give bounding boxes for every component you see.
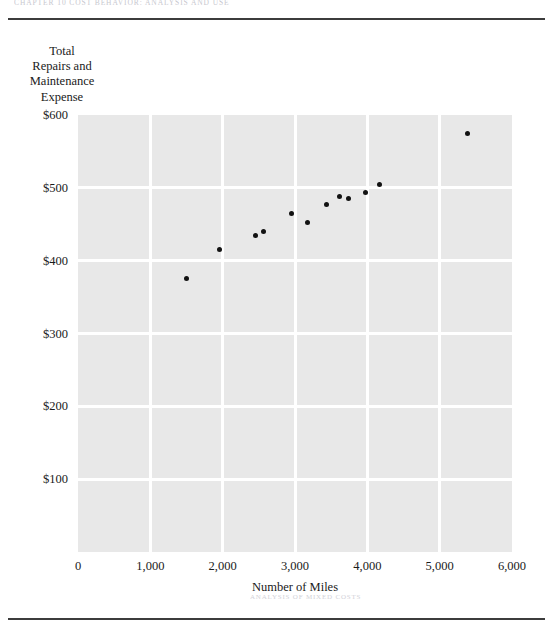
- data-point: [305, 220, 310, 225]
- y-axis-title-line-2: Repairs and: [2, 59, 122, 74]
- y-axis-title-line-3: Maintenance: [2, 74, 122, 89]
- gridline-horizontal: [78, 259, 512, 262]
- y-axis-tick-label: $100: [10, 473, 68, 486]
- data-point: [324, 202, 329, 207]
- y-axis-tick-label: $500: [10, 182, 68, 195]
- x-axis-tick-label: 0: [48, 559, 108, 573]
- data-point: [184, 276, 189, 281]
- data-point: [346, 196, 351, 201]
- data-point: [377, 182, 382, 187]
- x-axis-tick-label: 3,000: [265, 559, 325, 573]
- y-axis-title-text-2: Repairs and: [32, 59, 91, 73]
- y-axis-title-line-1: Total: [2, 44, 122, 59]
- scatter-plot-figure: Total Repairs and Maintenance Expense $1…: [0, 0, 553, 635]
- gridline-horizontal: [78, 186, 512, 189]
- data-point: [253, 233, 258, 238]
- y-axis-tick-label: $200: [10, 400, 68, 413]
- x-axis-tick-label: 2,000: [193, 559, 253, 573]
- data-point: [465, 131, 470, 136]
- foot-note: ANALYSIS OF MIXED COSTS: [250, 593, 480, 601]
- data-point: [261, 229, 266, 234]
- data-point: [337, 194, 342, 199]
- rule-bottom: [8, 618, 545, 620]
- y-axis-tick-label: $400: [10, 255, 68, 268]
- data-point: [289, 211, 294, 216]
- y-axis-tick-label: $300: [10, 328, 68, 341]
- plot-area: [78, 115, 512, 552]
- y-axis-title-text-4: Expense: [41, 90, 83, 104]
- x-axis-tick-label: 5,000: [410, 559, 470, 573]
- y-axis-title-text-1: Total: [49, 44, 75, 58]
- y-axis-title: Total Repairs and Maintenance Expense: [2, 44, 122, 105]
- x-axis-tick-label: 4,000: [337, 559, 397, 573]
- gridline-horizontal: [78, 405, 512, 408]
- y-axis-title-text-3: Maintenance: [30, 74, 95, 88]
- y-axis-title-line-4: Expense: [2, 90, 122, 105]
- y-axis-tick-label: $600: [10, 109, 68, 122]
- x-axis-tick-label: 1,000: [120, 559, 180, 573]
- gridline-horizontal: [78, 332, 512, 335]
- textbook-page: CHAPTER 10 COST BEHAVIOR: ANALYSIS AND U…: [0, 0, 553, 635]
- gridline-horizontal: [78, 478, 512, 481]
- x-axis-tick-label: 6,000: [482, 559, 542, 573]
- data-point: [217, 247, 222, 252]
